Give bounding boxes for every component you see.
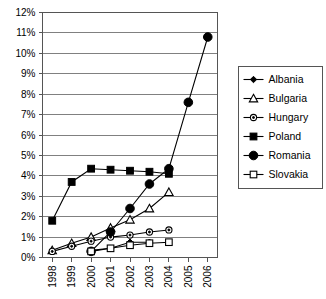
legend: AlbaniaBulgariaHungaryPolandRomaniaSlova…	[239, 67, 323, 189]
x-axis-labels: 199819992000200120022003200420052006	[47, 258, 214, 288]
x-tick-label: 2001	[105, 265, 116, 288]
x-tick-label: 2000	[86, 265, 97, 288]
data-point-marker	[88, 248, 95, 255]
chart-canvas: 0%1%2%3%4%5%6%7%8%9%10%11%12%19981999200…	[0, 0, 326, 299]
line-chart: 0%1%2%3%4%5%6%7%8%9%10%11%12%19981999200…	[0, 0, 326, 299]
series-line	[91, 37, 208, 251]
y-tick-label: 6%	[21, 130, 36, 141]
series-romania	[87, 33, 212, 256]
data-point-marker	[166, 239, 173, 246]
y-tick-label: 5%	[21, 150, 36, 161]
x-tick-label: 2003	[144, 265, 155, 288]
y-tick-label: 9%	[21, 68, 36, 79]
legend-item-label: Romania	[269, 149, 311, 161]
legend-item-label: Hungary	[269, 111, 309, 123]
legend-item-label: Poland	[269, 130, 302, 142]
data-point-marker-center	[253, 117, 255, 119]
data-point-marker	[250, 171, 257, 178]
y-tick-label: 3%	[21, 191, 36, 202]
data-point-marker	[146, 240, 153, 247]
x-tick-label: 1998	[47, 265, 58, 288]
legend-item-label: Albania	[269, 73, 304, 85]
legend-item-romania[interactable]: Romania	[244, 149, 311, 161]
data-point-marker	[165, 188, 173, 196]
x-tick-label: 2006	[202, 265, 213, 288]
y-tick-label: 11%	[16, 27, 35, 38]
data-point-marker	[249, 151, 258, 160]
data-point-marker	[49, 217, 56, 224]
data-point-marker	[145, 180, 154, 189]
data-point-marker-center	[90, 240, 92, 242]
x-tick-label: 1999	[66, 265, 77, 288]
y-tick-label: 0%	[21, 252, 36, 263]
data-point-marker	[250, 133, 257, 140]
data-point-marker-center	[51, 250, 53, 252]
y-tick-label: 2%	[21, 211, 36, 222]
data-point-marker	[165, 164, 174, 173]
data-point-marker	[146, 168, 153, 175]
data-point-marker	[107, 166, 114, 173]
series-line	[52, 169, 169, 221]
series-group	[48, 33, 212, 256]
x-tick-label: 2005	[183, 265, 194, 288]
series-bulgaria	[48, 188, 173, 254]
data-point-marker-center	[148, 231, 150, 233]
y-tick-label: 4%	[21, 170, 36, 181]
data-point-marker-center	[168, 229, 170, 231]
legend-item-label: Slovakia	[269, 168, 309, 180]
data-point-marker	[68, 179, 75, 186]
x-tick-label: 2002	[125, 265, 136, 288]
data-point-marker	[106, 228, 115, 237]
data-point-marker	[203, 33, 212, 42]
y-tick-label: 1%	[21, 232, 36, 243]
y-tick-label: 7%	[21, 109, 36, 120]
data-point-marker-center	[129, 234, 131, 236]
x-tick-label: 2004	[163, 265, 174, 288]
y-tick-label: 10%	[15, 48, 35, 59]
data-point-marker-center	[71, 245, 73, 247]
data-point-marker	[126, 204, 135, 213]
data-point-marker	[184, 98, 193, 107]
data-point-marker	[107, 245, 114, 252]
y-tick-label: 8%	[21, 89, 36, 100]
legend-item-label: Bulgaria	[269, 92, 308, 104]
y-tick-label: 12%	[15, 7, 35, 18]
data-point-marker	[88, 165, 95, 172]
data-point-marker	[127, 167, 134, 174]
data-point-marker	[127, 242, 134, 249]
series-poland	[49, 165, 172, 224]
